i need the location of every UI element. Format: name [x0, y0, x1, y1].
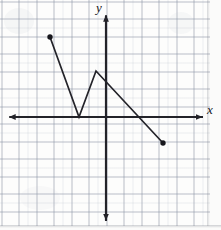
right-endpoint-dot: [160, 140, 165, 145]
y-axis-label: y: [96, 1, 102, 14]
plot-canvas: [0, 0, 221, 230]
graph-screenshot: y x: [0, 0, 221, 230]
left-endpoint-dot: [47, 34, 52, 39]
x-axis-label: x: [207, 103, 213, 116]
